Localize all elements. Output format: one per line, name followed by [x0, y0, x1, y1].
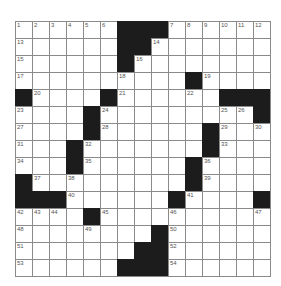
- grid-cell[interactable]: [151, 174, 168, 191]
- grid-cell[interactable]: 35: [83, 157, 100, 174]
- grid-cell[interactable]: [202, 38, 219, 55]
- grid-cell[interactable]: 30: [253, 123, 270, 140]
- grid-cell[interactable]: 17: [15, 72, 32, 89]
- grid-cell[interactable]: [117, 225, 134, 242]
- grid-cell[interactable]: [134, 191, 151, 208]
- grid-cell[interactable]: [151, 140, 168, 157]
- grid-cell[interactable]: [151, 72, 168, 89]
- grid-cell[interactable]: [236, 174, 253, 191]
- grid-cell[interactable]: [151, 191, 168, 208]
- grid-cell[interactable]: [219, 242, 236, 259]
- grid-cell[interactable]: [117, 123, 134, 140]
- grid-cell[interactable]: 29: [219, 123, 236, 140]
- grid-cell[interactable]: [66, 72, 83, 89]
- grid-cell[interactable]: [117, 157, 134, 174]
- grid-cell[interactable]: 27: [15, 123, 32, 140]
- grid-cell[interactable]: 24: [100, 106, 117, 123]
- grid-cell[interactable]: 53: [15, 259, 32, 276]
- grid-cell[interactable]: [219, 191, 236, 208]
- grid-cell[interactable]: [236, 55, 253, 72]
- grid-cell[interactable]: 16: [134, 55, 151, 72]
- grid-cell[interactable]: [134, 174, 151, 191]
- grid-cell[interactable]: [202, 106, 219, 123]
- grid-cell[interactable]: [236, 157, 253, 174]
- grid-cell[interactable]: 11: [236, 21, 253, 38]
- grid-cell[interactable]: 33: [219, 140, 236, 157]
- grid-cell[interactable]: 15: [15, 55, 32, 72]
- grid-cell[interactable]: 22: [185, 89, 202, 106]
- grid-cell[interactable]: 9: [202, 21, 219, 38]
- grid-cell[interactable]: [32, 157, 49, 174]
- grid-cell[interactable]: 6: [100, 21, 117, 38]
- grid-cell[interactable]: [83, 174, 100, 191]
- grid-cell[interactable]: 13: [15, 38, 32, 55]
- grid-cell[interactable]: [32, 225, 49, 242]
- grid-cell[interactable]: [49, 72, 66, 89]
- grid-cell[interactable]: [236, 259, 253, 276]
- grid-cell[interactable]: 21: [117, 89, 134, 106]
- grid-cell[interactable]: [151, 89, 168, 106]
- grid-cell[interactable]: [236, 140, 253, 157]
- grid-cell[interactable]: [253, 38, 270, 55]
- grid-cell[interactable]: 25: [219, 106, 236, 123]
- grid-cell[interactable]: [49, 259, 66, 276]
- grid-cell[interactable]: [83, 191, 100, 208]
- grid-cell[interactable]: [83, 38, 100, 55]
- grid-cell[interactable]: 45: [100, 208, 117, 225]
- grid-cell[interactable]: [151, 208, 168, 225]
- grid-cell[interactable]: [168, 55, 185, 72]
- grid-cell[interactable]: 32: [83, 140, 100, 157]
- grid-cell[interactable]: 31: [15, 140, 32, 157]
- grid-cell[interactable]: [49, 225, 66, 242]
- grid-cell[interactable]: [253, 174, 270, 191]
- grid-cell[interactable]: [219, 208, 236, 225]
- grid-cell[interactable]: 26: [236, 106, 253, 123]
- grid-cell[interactable]: [100, 174, 117, 191]
- grid-cell[interactable]: [134, 157, 151, 174]
- grid-cell[interactable]: [49, 55, 66, 72]
- grid-cell[interactable]: [117, 208, 134, 225]
- grid-cell[interactable]: [49, 123, 66, 140]
- grid-cell[interactable]: [134, 89, 151, 106]
- grid-cell[interactable]: [185, 106, 202, 123]
- grid-cell[interactable]: [202, 259, 219, 276]
- grid-cell[interactable]: 40: [66, 191, 83, 208]
- grid-cell[interactable]: [236, 38, 253, 55]
- grid-cell[interactable]: [100, 191, 117, 208]
- grid-cell[interactable]: 48: [15, 225, 32, 242]
- grid-cell[interactable]: [168, 140, 185, 157]
- grid-cell[interactable]: 7: [168, 21, 185, 38]
- grid-cell[interactable]: 37: [32, 174, 49, 191]
- grid-cell[interactable]: [168, 38, 185, 55]
- grid-cell[interactable]: [32, 259, 49, 276]
- grid-cell[interactable]: [202, 225, 219, 242]
- grid-cell[interactable]: [49, 106, 66, 123]
- grid-cell[interactable]: [66, 106, 83, 123]
- grid-cell[interactable]: [100, 157, 117, 174]
- grid-cell[interactable]: [168, 72, 185, 89]
- grid-cell[interactable]: 44: [49, 208, 66, 225]
- grid-cell[interactable]: [202, 89, 219, 106]
- grid-cell[interactable]: [253, 72, 270, 89]
- grid-cell[interactable]: [151, 106, 168, 123]
- grid-cell[interactable]: 51: [15, 242, 32, 259]
- grid-cell[interactable]: 54: [168, 259, 185, 276]
- grid-cell[interactable]: [219, 157, 236, 174]
- grid-cell[interactable]: [219, 225, 236, 242]
- grid-cell[interactable]: [83, 72, 100, 89]
- grid-cell[interactable]: [117, 106, 134, 123]
- grid-cell[interactable]: [100, 55, 117, 72]
- grid-cell[interactable]: [66, 242, 83, 259]
- grid-cell[interactable]: [151, 123, 168, 140]
- grid-cell[interactable]: [253, 140, 270, 157]
- grid-cell[interactable]: [134, 208, 151, 225]
- grid-cell[interactable]: 3: [49, 21, 66, 38]
- grid-cell[interactable]: [168, 89, 185, 106]
- grid-cell[interactable]: [66, 225, 83, 242]
- grid-cell[interactable]: [117, 174, 134, 191]
- grid-cell[interactable]: 20: [32, 89, 49, 106]
- grid-cell[interactable]: [219, 259, 236, 276]
- grid-cell[interactable]: [185, 38, 202, 55]
- grid-cell[interactable]: [168, 174, 185, 191]
- grid-cell[interactable]: [32, 106, 49, 123]
